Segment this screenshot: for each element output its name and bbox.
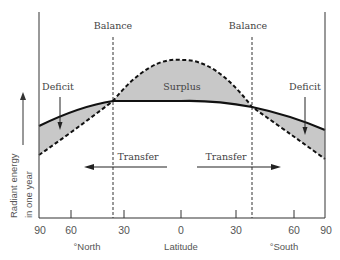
surplus-label: Surplus (163, 81, 200, 92)
south-label: °South (270, 241, 299, 252)
y-axis-label-line2: in one year (23, 171, 34, 218)
right-arrow-icon (271, 164, 281, 170)
tick-label-90-north: 90 (34, 224, 46, 236)
balance-label-right: Balance (229, 20, 268, 31)
transfer-label-right: Transfer (205, 151, 247, 162)
y-axis-label-line1: Radiant energy (8, 153, 19, 218)
x-ticks (71, 210, 294, 218)
tick-label-90-south: 90 (320, 224, 332, 236)
transfer-label-left: Transfer (117, 151, 159, 162)
tick-label-0: 0 (178, 224, 184, 236)
tick-label-60-north: 60 (65, 224, 77, 236)
latitude-label: Latitude (164, 241, 198, 252)
tick-label-30-north: 30 (118, 224, 130, 236)
north-label: °North (73, 241, 100, 252)
up-arrow-icon (20, 92, 26, 100)
deficit-label-left: Deficit (42, 81, 74, 92)
deficit-label-right: Deficit (289, 81, 321, 92)
balance-label-left: Balance (94, 20, 133, 31)
tick-label-30-south: 30 (230, 224, 242, 236)
left-arrow-icon (84, 164, 94, 170)
energy-balance-diagram: 90 60 30 0 30 60 90 °North Latitude °Sou… (0, 0, 340, 260)
tick-label-60-south: 60 (288, 224, 300, 236)
